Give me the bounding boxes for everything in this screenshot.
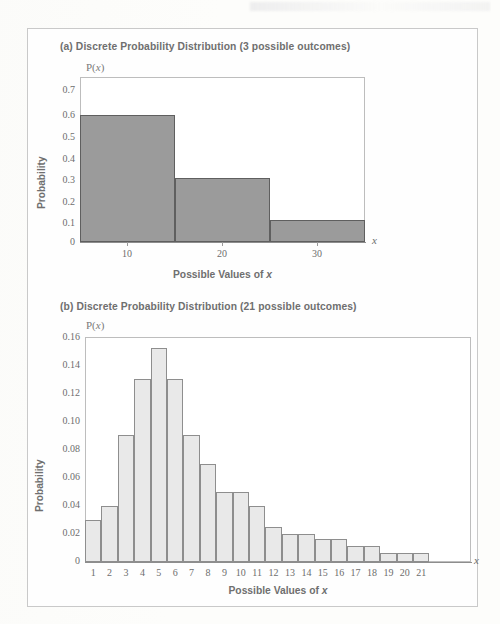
chart-b-ytick-6: 0.04 [38,499,80,510]
chart-a-ytick-2: 0.5 [42,131,75,142]
bar-a-30 [270,220,365,242]
bar-b-21 [413,553,429,562]
bar-b-5 [151,348,167,562]
chart-b-ytick-1: 0.14 [38,359,80,370]
chart-a-ytick-0: 0.7 [42,84,75,95]
chart-a-y-symbol: P(x) [86,61,104,73]
chart-a-ytick-1: 0.6 [42,109,75,120]
bar-b-2 [101,506,117,562]
chart-b-ytick-5: 0.06 [38,471,80,482]
chart-b-x-axis-label: Possible Values of x [85,585,471,596]
chart-a-xtick-30: 30 [302,248,332,259]
chart-a-xtickmark-30 [317,242,318,246]
chart-a-ytick-7: 0 [42,236,75,247]
bar-b-18 [364,546,380,562]
bar-b-19 [380,553,396,562]
scan-artifact [250,2,490,11]
bar-a-10 [80,115,175,242]
bar-b-20 [397,553,413,562]
chart-b-ytick-4: 0.08 [38,443,80,454]
chart-a-ytick-6: 0.1 [42,217,75,228]
chart-a-title: (a) Discrete Probability Distribution (3… [60,41,350,52]
bar-b-15 [315,539,331,562]
chart-b-ytick-3: 0.10 [38,415,80,426]
bar-b-10 [233,492,249,562]
bar-b-8 [200,464,216,562]
chart-a-xtickmark-10 [127,242,128,246]
chart-a-x-axis [80,242,366,243]
chart-b-ytick-0: 0.16 [38,331,80,342]
bar-b-6 [167,379,183,562]
bar-b-3 [118,435,134,562]
bar-b-9 [216,492,232,562]
chart-b-title: (b) Discrete Probability Distribution (2… [60,301,357,312]
chart-a-x-axis-label: Possible Values of x [80,269,365,280]
chart-a-ytick-3: 0.4 [42,153,75,164]
chart-b-ytick-7: 0.02 [38,527,80,538]
chart-b: (b) Discrete Probability Distribution (2… [28,297,479,608]
bar-b-14 [298,534,314,562]
bar-b-17 [347,546,363,562]
bar-b-16 [331,539,347,562]
chart-b-x-symbol: x [474,554,479,566]
bar-b-12 [265,527,281,562]
bar-b-11 [249,506,265,562]
bar-b-13 [282,534,298,562]
chart-b-xtick-21: 21 [411,567,431,578]
chart-a-x-symbol: x [372,234,377,246]
chart-a-xtickmark-20 [222,242,223,246]
chart-a-ytick-5: 0.2 [42,196,75,207]
bar-b-7 [183,435,199,562]
chart-a-ytick-4: 0.3 [42,174,75,185]
bar-b-4 [134,379,150,562]
figure-frame: (a) Discrete Probability Distribution (3… [27,28,478,607]
chart-a-xtick-10: 10 [112,248,142,259]
bar-a-20 [175,178,270,242]
chart-b-x-axis [85,562,472,563]
chart-b-ytick-8: 0 [38,555,80,566]
chart-a: (a) Discrete Probability Distribution (3… [28,29,479,297]
bar-b-1 [85,520,101,562]
chart-b-ytick-2: 0.12 [38,387,80,398]
chart-a-xtick-20: 20 [207,248,237,259]
chart-b-y-symbol: P(x) [86,319,104,331]
